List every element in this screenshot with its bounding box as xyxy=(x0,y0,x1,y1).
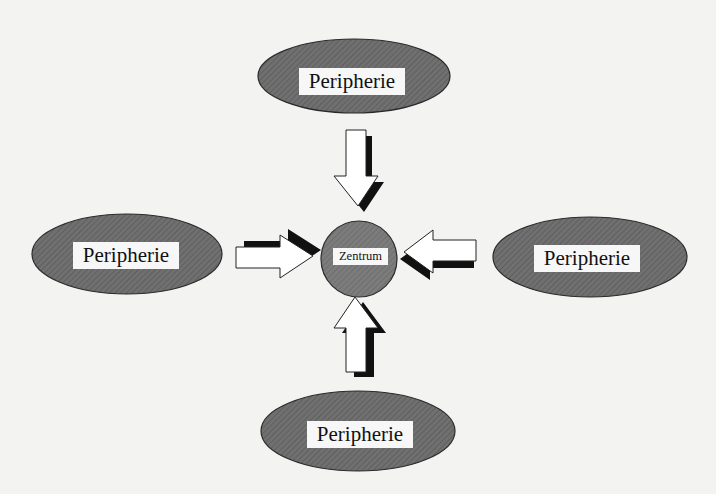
periphery-label-bottom: Peripherie xyxy=(307,421,413,448)
arrow-bottom-to-center xyxy=(334,297,386,377)
arrow-left-to-center xyxy=(236,229,321,278)
periphery-label-top: Peripherie xyxy=(299,68,405,95)
arrow-top-to-center xyxy=(334,130,384,212)
periphery-label-left: Peripherie xyxy=(73,242,179,269)
periphery-label-right: Peripherie xyxy=(534,245,640,272)
center-label: Zentrum xyxy=(333,248,388,265)
arrow-right-to-center xyxy=(400,230,476,280)
